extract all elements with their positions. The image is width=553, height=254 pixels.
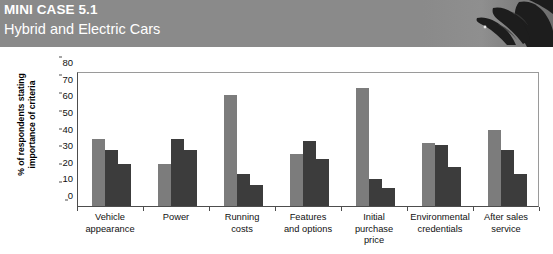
y-axis-tick-label: 0	[68, 191, 78, 201]
x-axis-tick-mark	[341, 207, 342, 211]
bar-group	[78, 73, 144, 206]
y-axis-tick-label: 40	[62, 125, 78, 135]
y-axis-tick-label: 80	[62, 58, 78, 68]
y-axis-tick-label: 10	[62, 174, 78, 184]
header-underline	[0, 47, 553, 49]
bar	[422, 143, 435, 206]
x-axis-tick-mark	[473, 207, 474, 211]
x-axis-tick-mark	[143, 207, 144, 211]
plot-area: 01020304050607080	[77, 72, 539, 207]
bar	[448, 167, 461, 206]
bar	[435, 145, 448, 206]
bars-layer	[78, 73, 538, 206]
y-axis-tick-label: 50	[62, 108, 78, 118]
bar	[224, 95, 237, 206]
bar-group	[276, 73, 342, 206]
bar	[237, 174, 250, 206]
header-text-block: MINI CASE 5.1 Hybrid and Electric Cars	[4, 2, 160, 39]
bar	[356, 88, 369, 206]
bar	[514, 174, 527, 206]
y-axis-tick-label: 20	[62, 158, 78, 168]
bar	[118, 164, 131, 206]
bar	[303, 141, 316, 206]
case-title: Hybrid and Electric Cars	[4, 20, 160, 39]
bar	[92, 139, 105, 206]
y-axis-tick-mark	[65, 200, 68, 201]
x-axis-tick-mark	[209, 207, 210, 211]
y-axis-tick-mark	[59, 110, 62, 111]
bar	[382, 188, 395, 206]
bar	[501, 150, 514, 206]
bar	[290, 154, 303, 206]
x-axis-tick-mark	[77, 207, 78, 211]
bar	[250, 185, 263, 206]
y-axis-tick-mark	[59, 164, 62, 165]
mini-case-header-banner: MINI CASE 5.1 Hybrid and Electric Cars	[0, 0, 553, 47]
clipped-figure-caption	[160, 248, 460, 254]
x-axis-category-label: After sales service	[467, 212, 545, 235]
bar	[316, 159, 329, 206]
y-axis-tick-label: 60	[62, 91, 78, 101]
y-axis-tick-mark	[59, 128, 62, 129]
case-label: MINI CASE 5.1	[4, 2, 160, 18]
bar-group	[474, 73, 540, 206]
x-axis-tick-mark	[275, 207, 276, 211]
bar-group	[408, 73, 474, 206]
eagle-photo	[423, 0, 553, 47]
bar	[171, 139, 184, 206]
bar	[369, 179, 382, 206]
bar-group	[342, 73, 408, 206]
y-axis-tick-mark	[59, 182, 62, 183]
bar	[105, 150, 118, 206]
bar-chart: % of respondents stating importance of c…	[0, 52, 553, 254]
bar-group	[144, 73, 210, 206]
x-axis-tick-mark	[407, 207, 408, 211]
y-axis-tick-label: 30	[62, 141, 78, 151]
x-axis-tick-mark	[539, 207, 540, 211]
y-axis-tick-mark	[59, 74, 62, 75]
y-axis-tick-mark	[59, 57, 62, 58]
bar-group	[210, 73, 276, 206]
bar	[184, 150, 197, 206]
bar	[158, 164, 171, 206]
y-axis-tick-mark	[59, 92, 62, 93]
y-axis-tick-mark	[59, 146, 62, 147]
y-axis-title: % of respondents stating importance of c…	[16, 55, 37, 195]
bar	[488, 130, 501, 206]
y-axis-tick-label: 70	[62, 75, 78, 85]
